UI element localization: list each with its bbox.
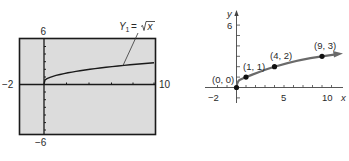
y-axis-label: y <box>226 8 233 19</box>
ytick-label-6: 6 <box>227 20 232 31</box>
curve-arrow-icon <box>333 51 343 58</box>
annotation-subscript: 1 <box>126 26 130 33</box>
figure: 6 −6 −2 10 Y 1 = x <box>0 0 349 161</box>
annotation-equals: = <box>131 21 137 32</box>
point-1-1 <box>243 75 248 80</box>
calc-xmin-label: −2 <box>2 79 14 90</box>
point-0-0 <box>234 85 239 90</box>
point-label-1-1: (1, 1) <box>243 61 265 72</box>
point-label-0-0: (0, 0) <box>212 74 234 85</box>
point-label-4-2: (4, 2) <box>270 50 292 61</box>
xtick-label-neg2: −2 <box>208 92 219 103</box>
calc-ymax-label: 6 <box>41 26 47 37</box>
calculator-graph <box>20 33 156 135</box>
calc-ymin-label: −6 <box>35 137 47 148</box>
annotation-radicand: x <box>147 21 154 32</box>
calculator-screen <box>20 39 156 135</box>
y-axis-arrow-icon <box>234 10 238 16</box>
xtick-label-5: 5 <box>281 92 286 103</box>
point-label-9-3: (9, 3) <box>314 40 336 51</box>
xtick-label-10: 10 <box>322 92 333 103</box>
function-annotation: Y 1 = x <box>119 21 155 33</box>
calc-xmax-label: 10 <box>159 79 171 90</box>
x-axis-label: x <box>340 92 347 103</box>
point-9-3 <box>319 54 324 59</box>
point-4-2 <box>272 64 277 69</box>
